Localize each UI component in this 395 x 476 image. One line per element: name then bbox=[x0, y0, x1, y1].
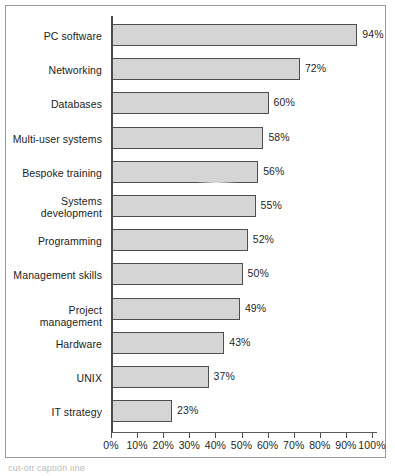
bar bbox=[112, 263, 243, 285]
bar-row: Multi-user systems58% bbox=[6, 121, 385, 155]
bar-value-label: 72% bbox=[305, 62, 326, 74]
x-axis-tick-label: 50% bbox=[231, 439, 252, 451]
bar-value-label: 23% bbox=[177, 404, 198, 416]
bar-container: 52% bbox=[112, 229, 378, 251]
bar-container: 49% bbox=[112, 298, 378, 320]
x-axis-line bbox=[111, 432, 377, 433]
category-label: Databases bbox=[6, 98, 102, 110]
x-axis-tick bbox=[294, 433, 295, 438]
bar-container: 23% bbox=[112, 400, 378, 422]
x-axis-tick-label: 80% bbox=[309, 439, 330, 451]
category-label: Hardware bbox=[6, 338, 102, 350]
x-axis-tick bbox=[163, 433, 164, 438]
bar-container: 56% bbox=[112, 161, 378, 183]
category-label: Programming bbox=[6, 235, 102, 247]
chart-frame: PC software94%Networking72%Databases60%M… bbox=[5, 5, 386, 458]
x-axis-tick-label: 70% bbox=[283, 439, 304, 451]
x-axis-tick bbox=[320, 433, 321, 438]
bar-container: 43% bbox=[112, 332, 378, 354]
x-axis-tick-label: 60% bbox=[257, 439, 278, 451]
bar-container: 50% bbox=[112, 263, 378, 285]
bar bbox=[112, 332, 224, 354]
x-axis-tick bbox=[268, 433, 269, 438]
bar-row: Bespoke training56% bbox=[6, 155, 385, 189]
category-label: Networking bbox=[6, 64, 102, 76]
x-axis-tick bbox=[215, 433, 216, 438]
figure-caption-text: cut-off caption line bbox=[8, 466, 388, 473]
bar-row: UNIX37% bbox=[6, 360, 385, 394]
bar bbox=[112, 92, 269, 114]
category-label: PC software bbox=[6, 30, 102, 42]
x-axis-tick bbox=[111, 433, 112, 438]
x-axis-tick-label: 30% bbox=[179, 439, 200, 451]
x-axis-tick bbox=[189, 433, 190, 438]
bar-value-label: 55% bbox=[261, 199, 282, 211]
category-label: UNIX bbox=[6, 372, 102, 384]
bar-row: Databases60% bbox=[6, 86, 385, 120]
bar-row: Project management49% bbox=[6, 292, 385, 326]
bar bbox=[112, 127, 263, 149]
bar-row: Hardware43% bbox=[6, 326, 385, 360]
x-axis-tick bbox=[346, 433, 347, 438]
bar-row: IT strategy23% bbox=[6, 394, 385, 428]
bar-value-label: 49% bbox=[245, 302, 266, 314]
x-axis-tick-label: 10% bbox=[126, 439, 147, 451]
bar bbox=[112, 298, 240, 320]
category-label: Bespoke training bbox=[6, 167, 102, 179]
bar-row: Management skills50% bbox=[6, 257, 385, 291]
bar-value-label: 94% bbox=[362, 28, 383, 40]
x-axis-tick-label: 100% bbox=[358, 439, 385, 451]
bar-row: Programming52% bbox=[6, 223, 385, 257]
bar-value-label: 43% bbox=[229, 336, 250, 348]
bar-chart-plot-area: PC software94%Networking72%Databases60%M… bbox=[6, 6, 385, 457]
figure-caption: cut-off caption line bbox=[8, 466, 388, 476]
category-label: Systemsdevelopment bbox=[6, 195, 102, 219]
x-axis-tick-label: 40% bbox=[205, 439, 226, 451]
bar-container: 72% bbox=[112, 58, 378, 80]
bar bbox=[112, 229, 248, 251]
bar-container: 94% bbox=[112, 24, 378, 46]
category-label: IT strategy bbox=[6, 406, 102, 418]
x-axis-tick-label: 20% bbox=[153, 439, 174, 451]
bar-row: Networking72% bbox=[6, 52, 385, 86]
bar bbox=[112, 58, 300, 80]
bar-row: Systemsdevelopment55% bbox=[6, 189, 385, 223]
bar bbox=[112, 195, 256, 217]
x-axis-tick bbox=[137, 433, 138, 438]
bar-value-label: 50% bbox=[248, 267, 269, 279]
bar-value-label: 56% bbox=[263, 165, 284, 177]
x-axis-tick-label: 90% bbox=[335, 439, 356, 451]
bar-value-label: 52% bbox=[253, 233, 274, 245]
bar bbox=[112, 161, 258, 183]
bar-container: 58% bbox=[112, 127, 378, 149]
category-label: Management skills bbox=[6, 269, 102, 281]
bar-row: PC software94% bbox=[6, 18, 385, 52]
bar-container: 60% bbox=[112, 92, 378, 114]
x-axis-tick-label: 0% bbox=[103, 439, 118, 451]
x-axis-tick bbox=[372, 433, 373, 438]
bar bbox=[112, 366, 209, 388]
bar-value-label: 60% bbox=[274, 96, 295, 108]
bar-value-label: 37% bbox=[214, 370, 235, 382]
bar-value-label: 58% bbox=[268, 131, 289, 143]
bar bbox=[112, 24, 357, 46]
x-axis-tick bbox=[242, 433, 243, 438]
bar-container: 37% bbox=[112, 366, 378, 388]
category-label: Project management bbox=[6, 304, 102, 328]
bar bbox=[112, 400, 172, 422]
category-label: Multi-user systems bbox=[6, 133, 102, 145]
bar-container: 55% bbox=[112, 195, 378, 217]
